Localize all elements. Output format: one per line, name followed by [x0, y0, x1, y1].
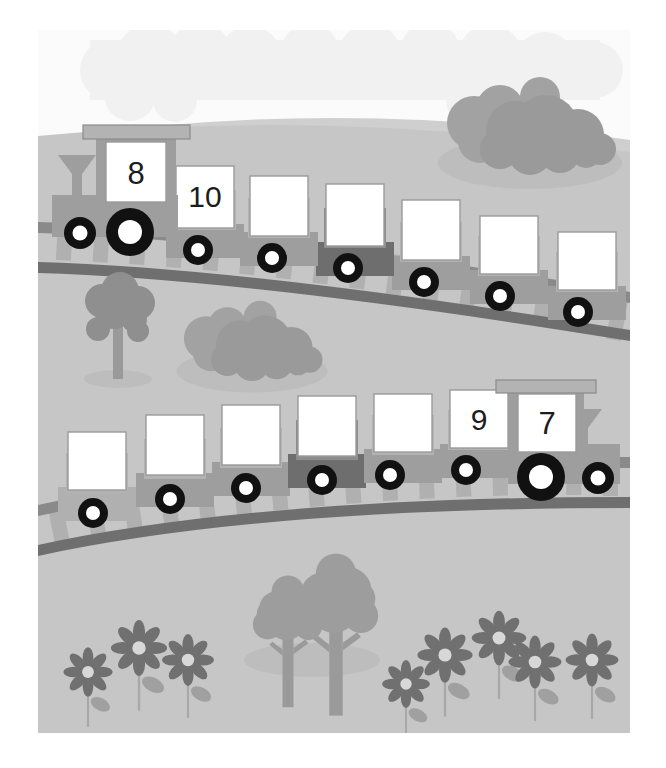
bottom-car-6-number: 9 [471, 403, 488, 436]
top-train-car-6[interactable] [470, 216, 548, 311]
tree-group-shadow [244, 643, 380, 677]
bottom-locomotive-roof [496, 380, 596, 393]
bottom-locomotive-number: 7 [538, 406, 555, 441]
top-train-car-3[interactable] [240, 176, 318, 273]
top-car-2-number: 10 [188, 180, 221, 213]
bottom-train-car-6[interactable]: 9 [440, 390, 518, 485]
bottom-train-car-4[interactable] [288, 396, 366, 495]
top-train-car-7[interactable] [548, 232, 626, 327]
illustration-frame: 10 8 [38, 22, 630, 737]
top-locomotive-number: 8 [127, 156, 144, 191]
scene-canvas: 10 8 [0, 0, 666, 768]
bottom-train-car-1[interactable] [58, 432, 136, 528]
top-train-car-4[interactable] [316, 184, 394, 283]
top-locomotive-roof [83, 125, 190, 139]
worksheet-illustration: 10 8 [0, 0, 666, 768]
bottom-train-car-3[interactable] [212, 405, 290, 503]
bottom-train-car-5[interactable] [364, 394, 442, 490]
bottom-train-car-2[interactable] [136, 415, 214, 514]
top-train-car-5[interactable] [392, 200, 470, 297]
